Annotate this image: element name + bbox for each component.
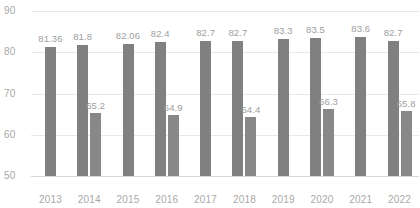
x-axis-tick-label: 2015 [109,195,148,205]
x-axis-tick-label: 2020 [303,195,342,205]
x-axis-tick-label: 2019 [264,195,303,205]
bar-primary[interactable] [355,37,366,176]
bar-value-label: 81.36 [32,34,68,44]
y-axis-tick-label: 50 [4,171,28,181]
bar-primary[interactable] [278,39,289,176]
bar-value-label: 66.3 [311,97,347,107]
bar-value-label: 82.7 [188,28,224,38]
bar-secondary[interactable] [90,113,101,176]
bar-value-label: 82.06 [110,31,146,41]
y-axis-tick-label: 70 [4,89,28,99]
bar-secondary[interactable] [401,111,412,176]
bar-secondary[interactable] [168,115,179,176]
bar-secondary[interactable] [245,117,256,176]
x-axis-tick-label: 2016 [147,195,186,205]
bar-primary[interactable] [310,38,321,176]
bar-primary[interactable] [45,47,56,176]
bar-secondary[interactable] [323,109,334,176]
x-axis-tick-label: 2013 [31,195,70,205]
bar-primary[interactable] [200,41,211,176]
bar-value-label: 81.8 [65,32,101,42]
bar-value-label: 65.8 [388,99,420,109]
bar-value-label: 64.9 [155,103,191,113]
bar-value-label: 65.2 [78,101,114,111]
x-axis-tick-label: 2014 [70,195,109,205]
bar-value-label: 83.3 [265,26,301,36]
plot-area: 81.3681.865.282.0682.464.982.782.764.483… [31,11,419,176]
y-axis-tick-label: 90 [4,6,28,16]
x-axis-line [31,176,419,177]
bar-value-label: 82.7 [375,28,411,38]
y-axis-tick-label: 80 [4,47,28,57]
x-axis-tick-label: 2022 [380,195,419,205]
x-axis-tick-label: 2021 [341,195,380,205]
x-axis-tick-label: 2017 [186,195,225,205]
bar-value-label: 82.7 [220,28,256,38]
bar-value-label: 64.4 [233,105,269,115]
bar-value-label: 82.4 [142,29,178,39]
y-axis-tick-label: 60 [4,130,28,140]
bar-value-label: 83.6 [343,24,379,34]
x-axis-tick-label: 2018 [225,195,264,205]
gridline [31,11,419,12]
bar-primary[interactable] [123,44,134,176]
bar-chart: 9080706050 81.3681.865.282.0682.464.982.… [0,0,420,208]
bar-value-label: 83.5 [298,25,334,35]
